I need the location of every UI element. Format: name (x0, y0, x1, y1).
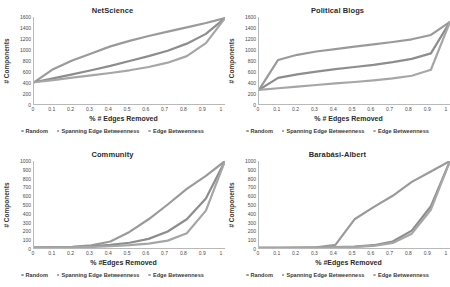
y-axis-tick-label: 600 (248, 193, 256, 199)
x-axis-tick-label: 0.2 (67, 106, 74, 112)
legend-item[interactable]: Random (246, 128, 273, 134)
legend-item[interactable]: Random (246, 272, 273, 278)
y-axis-label-wrap: # Components (0, 17, 11, 105)
x-axis-label: % #Edges Removed (247, 259, 450, 266)
x-axis-tick-label: 0.9 (199, 106, 206, 112)
chart-title: Barabási-Albert (225, 144, 450, 160)
y-axis-tick-label: 1000 (245, 47, 256, 53)
legend-label: Spanning Edge Betweenness (61, 128, 139, 134)
chart-legend: RandomSpanning Edge BetweennessEdge Betw… (0, 272, 225, 278)
x-axis-tick-label: 0.1 (273, 106, 280, 112)
series-line (259, 161, 450, 248)
y-axis-tick-label: 1400 (20, 25, 31, 31)
y-axis-tick-label: 800 (248, 176, 256, 182)
x-axis-tick-label: 1 (445, 106, 448, 112)
x-axis-ticks: 00.10.20.30.40.50.60.70.80.91 (33, 105, 221, 114)
x-axis-tick-label: 0.1 (273, 250, 280, 256)
x-axis-tick-label: 0.4 (330, 250, 337, 256)
y-axis-tick-label: 600 (23, 193, 31, 199)
legend-label: Random (251, 272, 273, 278)
chart-title: Political Blogs (225, 0, 450, 16)
x-axis-tick-label: 1 (220, 106, 223, 112)
legend-item[interactable]: Random (21, 272, 48, 278)
x-axis-ticks: 00.10.20.30.40.50.60.70.80.91 (258, 249, 446, 258)
legend-item[interactable]: Spanning Edge Betweenness (282, 272, 365, 278)
series-line (259, 22, 450, 90)
x-axis-tick-label: 0.4 (105, 106, 112, 112)
y-axis-tick-label: 400 (23, 211, 31, 217)
dot-marker (57, 130, 60, 133)
dot-marker (148, 130, 151, 133)
x-axis-tick-label: 0 (32, 250, 35, 256)
legend-item[interactable]: Edge Betweenness (148, 272, 203, 278)
x-axis-tick-label: 0.4 (105, 250, 112, 256)
x-axis-tick-label: 1 (220, 250, 223, 256)
series-svg (34, 17, 225, 104)
legend-label: Spanning Edge Betweenness (286, 128, 364, 134)
dot-marker (246, 130, 249, 133)
plot-area: # Components 020040060080010001200140016… (0, 17, 225, 105)
dot-marker (57, 274, 60, 277)
y-axis-tick-label: 0 (253, 246, 256, 252)
plot-canvas (33, 17, 225, 105)
x-axis-tick-label: 0.5 (349, 106, 356, 112)
legend-label: Edge Betweenness (378, 272, 429, 278)
chart-panel-barabasi-albert: Barabási-Albert # Components 01002003004… (225, 144, 450, 287)
x-axis-tick-label: 0.8 (180, 106, 187, 112)
plot-area: # Components 010020030040050060070080090… (0, 161, 225, 249)
x-axis-tick-label: 0.3 (311, 250, 318, 256)
y-axis-tick-label: 200 (23, 228, 31, 234)
legend-label: Random (26, 272, 48, 278)
x-axis-label: % # Edges Removed (22, 115, 225, 122)
y-axis-tick-label: 1000 (245, 158, 256, 164)
x-axis-tick-label: 0.2 (292, 250, 299, 256)
plot-area: # Components 010020030040050060070080090… (225, 161, 450, 249)
x-axis-tick-label: 0.7 (161, 106, 168, 112)
y-axis-label: # Components (227, 38, 234, 83)
legend-item[interactable]: Spanning Edge Betweenness (57, 272, 140, 278)
x-axis-ticks: 00.10.20.30.40.50.60.70.80.91 (258, 105, 446, 114)
legend-item[interactable]: Random (21, 128, 48, 134)
dot-marker (148, 274, 151, 277)
chart-panel-political-blogs: Political Blogs # Components 02004006008… (225, 0, 450, 144)
legend-label: Spanning Edge Betweenness (286, 272, 364, 278)
y-axis-ticks: 01002003004005006007008009001000 (236, 161, 258, 249)
chart-title: Community (0, 144, 225, 160)
legend-label: Random (251, 128, 273, 134)
y-axis-tick-label: 500 (248, 202, 256, 208)
x-axis-tick-label: 0.9 (424, 250, 431, 256)
y-axis-tick-label: 900 (248, 167, 256, 173)
plot-area: # Components 020040060080010001200140016… (225, 17, 450, 105)
y-axis-label: # Components (227, 182, 234, 227)
x-axis-tick-label: 0.2 (292, 106, 299, 112)
y-axis-label: # Components (2, 182, 9, 227)
x-axis-tick-label: 0.5 (349, 250, 356, 256)
plot-canvas (258, 161, 450, 249)
x-axis-tick-label: 0.8 (405, 250, 412, 256)
y-axis-tick-label: 1600 (245, 14, 256, 20)
series-line (34, 161, 225, 248)
y-axis-tick-label: 400 (23, 80, 31, 86)
legend-item[interactable]: Edge Betweenness (373, 128, 428, 134)
x-axis-tick-label: 0.3 (86, 250, 93, 256)
y-axis-tick-label: 100 (248, 237, 256, 243)
legend-item[interactable]: Edge Betweenness (148, 128, 203, 134)
y-axis-tick-label: 700 (23, 184, 31, 190)
y-axis-tick-label: 600 (248, 69, 256, 75)
x-axis-tick-label: 1 (445, 250, 448, 256)
dot-marker (246, 274, 249, 277)
legend-label: Edge Betweenness (153, 128, 204, 134)
x-axis-tick-label: 0.8 (405, 106, 412, 112)
y-axis-tick-label: 0 (253, 102, 256, 108)
legend-label: Edge Betweenness (378, 128, 429, 134)
legend-item[interactable]: Spanning Edge Betweenness (282, 128, 365, 134)
x-axis-label: % # Edges Removed (247, 115, 450, 122)
legend-item[interactable]: Spanning Edge Betweenness (57, 128, 140, 134)
y-axis-tick-label: 200 (23, 91, 31, 97)
chart-legend: RandomSpanning Edge BetweennessEdge Betw… (225, 272, 450, 278)
plot-canvas (258, 17, 450, 105)
legend-item[interactable]: Edge Betweenness (373, 272, 428, 278)
dot-marker (373, 130, 376, 133)
y-axis-tick-label: 0 (28, 246, 31, 252)
x-axis-tick-label: 0.4 (330, 106, 337, 112)
